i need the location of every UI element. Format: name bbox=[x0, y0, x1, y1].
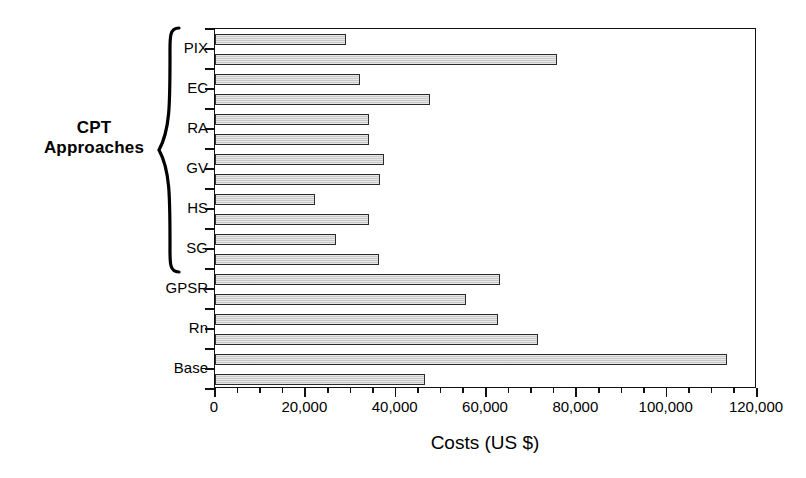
category-label-sg: SG bbox=[148, 240, 208, 255]
y-axis-tick bbox=[205, 328, 214, 330]
x-axis-minor-tick bbox=[282, 388, 284, 393]
y-axis-tick bbox=[205, 68, 214, 70]
x-axis-minor-tick bbox=[688, 388, 690, 393]
y-axis-tick bbox=[205, 168, 214, 170]
category-label-pix: PIX bbox=[148, 40, 208, 55]
x-axis-title: Costs (US $) bbox=[214, 432, 756, 454]
x-axis-minor-tick bbox=[259, 388, 261, 393]
category-label-ec: EC bbox=[148, 80, 208, 95]
x-axis-tick-label: 60,000 bbox=[462, 398, 508, 416]
x-axis-major-tick bbox=[214, 388, 216, 397]
x-axis-minor-tick bbox=[733, 388, 735, 393]
y-axis-tick bbox=[205, 228, 214, 230]
y-axis-tick bbox=[205, 48, 214, 50]
category-label-ra: RA bbox=[148, 120, 208, 135]
bar bbox=[215, 294, 466, 305]
x-axis-major-tick bbox=[575, 388, 577, 397]
y-axis-tick bbox=[205, 28, 214, 30]
bar-series bbox=[215, 29, 755, 387]
bar bbox=[215, 74, 360, 85]
x-axis-minor-tick bbox=[417, 388, 419, 393]
x-axis-minor-tick bbox=[327, 388, 329, 393]
bar bbox=[215, 174, 380, 185]
y-axis-tick bbox=[205, 188, 214, 190]
x-axis-tick-label: 80,000 bbox=[552, 398, 598, 416]
bar bbox=[215, 234, 336, 245]
bar bbox=[215, 134, 369, 145]
x-axis-minor-tick bbox=[598, 388, 600, 393]
x-axis-tick-label: 120,000 bbox=[729, 398, 783, 416]
x-axis-minor-tick bbox=[530, 388, 532, 393]
bar bbox=[215, 194, 315, 205]
x-axis-major-tick bbox=[395, 388, 397, 397]
x-axis-major-tick bbox=[304, 388, 306, 397]
y-axis-tick bbox=[205, 288, 214, 290]
x-axis-minor-tick bbox=[372, 388, 374, 393]
bar bbox=[215, 214, 369, 225]
bar bbox=[215, 354, 727, 365]
bar bbox=[215, 254, 379, 265]
category-label-gv: GV bbox=[148, 160, 208, 175]
x-axis-minor-tick bbox=[508, 388, 510, 393]
category-label-gpsr: GPSR bbox=[148, 280, 208, 295]
bar bbox=[215, 114, 369, 125]
x-axis-minor-tick bbox=[643, 388, 645, 393]
bar-chart: CPT Approaches PIXECRAGVHSSGGPSRRnBase 0… bbox=[0, 0, 806, 478]
y-axis-tick bbox=[205, 388, 214, 390]
bar bbox=[215, 314, 498, 325]
y-axis-tick bbox=[205, 128, 214, 130]
bar bbox=[215, 334, 538, 345]
x-axis-minor-tick bbox=[711, 388, 713, 393]
x-axis-tick-label: 0 bbox=[210, 398, 218, 416]
y-axis-ticks bbox=[205, 28, 215, 388]
category-label-hs: HS bbox=[148, 200, 208, 215]
y-axis-tick bbox=[205, 268, 214, 270]
y-axis-tick bbox=[205, 88, 214, 90]
x-axis-tick-label: 40,000 bbox=[372, 398, 418, 416]
y-axis-tick bbox=[205, 208, 214, 210]
x-axis-minor-tick bbox=[237, 388, 239, 393]
x-axis-tick-label: 20,000 bbox=[281, 398, 327, 416]
bar bbox=[215, 54, 557, 65]
category-label-base: Base bbox=[148, 360, 208, 375]
x-axis-minor-tick bbox=[462, 388, 464, 393]
x-axis-minor-tick bbox=[350, 388, 352, 393]
bar bbox=[215, 374, 425, 385]
y-axis-tick bbox=[205, 248, 214, 250]
x-axis-minor-tick bbox=[440, 388, 442, 393]
bar bbox=[215, 34, 346, 45]
y-axis-tick bbox=[205, 148, 214, 150]
bar bbox=[215, 94, 430, 105]
bar bbox=[215, 154, 384, 165]
y-axis-tick bbox=[205, 308, 214, 310]
category-label-rn: Rn bbox=[148, 320, 208, 335]
x-axis-ticks bbox=[214, 388, 756, 398]
x-axis-tick-label: 100,000 bbox=[639, 398, 693, 416]
x-axis-minor-tick bbox=[621, 388, 623, 393]
x-axis-major-tick bbox=[485, 388, 487, 397]
bar bbox=[215, 274, 500, 285]
x-axis-minor-tick bbox=[553, 388, 555, 393]
y-axis-tick bbox=[205, 108, 214, 110]
plot-area bbox=[214, 28, 756, 388]
x-axis-major-tick bbox=[666, 388, 668, 397]
x-axis-major-tick bbox=[756, 388, 758, 397]
x-axis-tick-labels: 020,00040,00060,00080,000100,000120,000 bbox=[0, 398, 806, 420]
y-axis-tick bbox=[205, 368, 214, 370]
y-axis-tick bbox=[205, 348, 214, 350]
